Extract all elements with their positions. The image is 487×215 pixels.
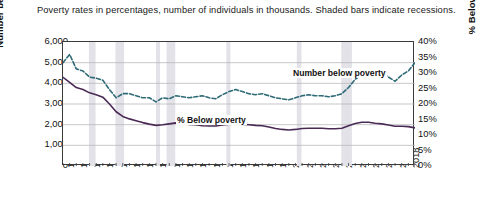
annotation-number-series: Number below poverty [292,68,387,78]
chart-svg [63,42,415,166]
chart-figure: Poverty rates in percentages, number of … [0,0,487,215]
y-axis-left-label: Number below poverty [0,0,5,56]
y-tick-right: 25% [418,82,437,93]
y-tick-right: 30% [418,66,437,77]
plot-area [62,41,414,165]
y-axis-right-label: % Below poverty [466,0,477,56]
y-tick-right: 40% [418,35,437,46]
chart-caption: Poverty rates in percentages, number of … [37,4,457,16]
y-tick-right: 20% [418,97,437,108]
y-tick-right: 10% [418,128,437,139]
annotation-percent-series: % Below poverty [176,115,247,125]
y-tick-right: 15% [418,113,437,124]
y-tick-right: 35% [418,51,437,62]
